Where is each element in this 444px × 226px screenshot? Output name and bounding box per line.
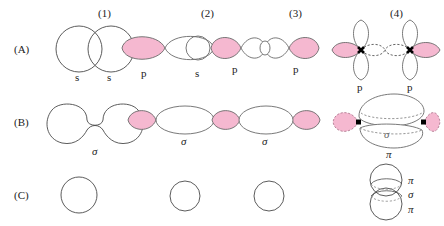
cell-C4: π σ π xyxy=(364,162,442,224)
label-A1-s-right: s xyxy=(107,72,111,83)
label-B2-sigma: σ xyxy=(181,136,186,147)
cell-C2-graphic xyxy=(166,179,212,219)
row-header-B: (B) xyxy=(14,117,29,128)
cell-A3-graphic xyxy=(210,22,320,82)
label-A3-p-left: p xyxy=(232,64,238,75)
row-header-A: (A) xyxy=(14,44,29,55)
cell-C2 xyxy=(166,179,212,219)
cell-C1 xyxy=(58,176,108,220)
label-A2-p: p xyxy=(141,68,147,79)
label-C4-sigma: σ xyxy=(408,189,413,200)
label-B1-sigma: σ xyxy=(92,146,97,157)
cell-C3 xyxy=(250,179,296,219)
label-B3-sigma: σ xyxy=(262,136,267,147)
cell-C1-graphic xyxy=(58,176,108,220)
cell-A4: p p xyxy=(330,18,442,88)
row-header-C: (C) xyxy=(14,190,29,201)
label-B4-pi: π xyxy=(386,149,392,160)
label-B4-sigma: σ xyxy=(384,129,389,140)
cell-C3-graphic xyxy=(250,179,296,219)
column-header-3: (3) xyxy=(289,8,302,19)
label-C4-pi-top: π xyxy=(408,175,414,186)
cell-B3: σ xyxy=(208,100,324,154)
orbital-diagram-figure: (1) (2) (3) (4) (A) (B) (C) s s p xyxy=(0,0,444,226)
cell-A3: p p xyxy=(210,22,320,82)
label-A2-s: s xyxy=(195,68,199,79)
cell-B4: σ π xyxy=(332,88,442,160)
cell-C4-graphic xyxy=(364,162,442,224)
column-header-2: (2) xyxy=(201,8,214,19)
label-A1-s-left: s xyxy=(75,72,79,83)
column-header-1: (1) xyxy=(98,8,111,19)
label-A3-p-right: p xyxy=(293,64,299,75)
label-C4-pi-bottom: π xyxy=(408,204,414,215)
cell-A4-graphic xyxy=(330,18,442,88)
